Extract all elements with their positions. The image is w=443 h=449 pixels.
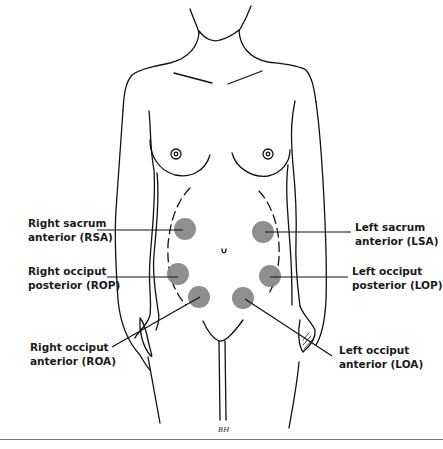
artist-initials: BH bbox=[217, 426, 230, 434]
pubic-outline bbox=[203, 320, 243, 341]
right-thigh-outer bbox=[289, 362, 299, 428]
inner-leg-right bbox=[225, 341, 226, 420]
left-torso-side bbox=[135, 111, 155, 338]
right-nipple-inner bbox=[266, 152, 270, 156]
left-nipple bbox=[171, 149, 181, 159]
uterus-left-outline bbox=[168, 188, 190, 305]
label-loa-line1: Left occiput bbox=[339, 343, 423, 357]
marker-lop bbox=[259, 265, 281, 287]
label-roa-line1: Right occiput bbox=[30, 340, 108, 354]
leader-roa bbox=[112, 297, 200, 347]
label-lop-line2: posterior (LOP) bbox=[352, 278, 442, 292]
label-lop: Left occiput posterior (LOP) bbox=[352, 264, 442, 292]
right-hand bbox=[299, 306, 315, 352]
right-torso-side bbox=[292, 101, 300, 306]
left-arm-outer bbox=[115, 110, 150, 370]
left-shoulder bbox=[123, 33, 199, 110]
label-rsa-line1: Right sacrum bbox=[28, 216, 96, 230]
right-arm-inner bbox=[287, 165, 292, 305]
neck-outline bbox=[190, 6, 251, 33]
label-lop-line1: Left occiput bbox=[352, 264, 442, 278]
label-roa: Right occiput anterior (ROA) bbox=[30, 340, 108, 368]
marker-loa bbox=[232, 287, 254, 309]
label-rop: Right occiput posterior (ROP) bbox=[28, 264, 106, 292]
label-roa-line2: anterior (ROA) bbox=[30, 354, 108, 368]
label-rop-line2: posterior (ROP) bbox=[28, 278, 106, 292]
leader-loa bbox=[245, 299, 332, 356]
right-shoulder bbox=[239, 31, 316, 102]
bottom-divider bbox=[0, 439, 443, 440]
label-lsa-line1: Left sacrum bbox=[355, 220, 439, 234]
label-rsa: Right sacrum anterior (RSA) bbox=[28, 216, 96, 244]
label-loa-line2: anterior (LOA) bbox=[339, 357, 423, 371]
right-arm-outer bbox=[316, 102, 326, 345]
right-clavicle bbox=[228, 71, 262, 84]
marker-rsa bbox=[174, 218, 196, 240]
label-lsa-line2: anterior (LSA) bbox=[355, 234, 439, 248]
right-breast bbox=[232, 150, 290, 176]
label-rop-line1: Right occiput bbox=[28, 264, 106, 278]
label-loa: Left occiput anterior (LOA) bbox=[339, 343, 423, 371]
left-clavicle bbox=[174, 73, 212, 83]
left-thigh-outer bbox=[148, 357, 160, 423]
label-rsa-line2: anterior (RSA) bbox=[28, 230, 96, 244]
position-markers bbox=[167, 218, 281, 309]
left-nipple-inner bbox=[174, 152, 178, 156]
inner-leg-left bbox=[219, 341, 220, 420]
marker-rop bbox=[167, 263, 189, 285]
label-lsa: Left sacrum anterior (LSA) bbox=[355, 220, 439, 248]
navel bbox=[222, 249, 226, 253]
right-nipple bbox=[263, 149, 273, 159]
chin-line bbox=[199, 30, 239, 41]
